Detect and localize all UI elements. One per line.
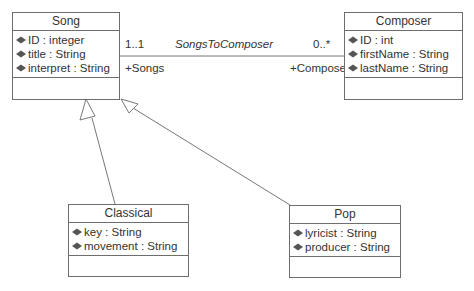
attribute: ID : int <box>348 33 459 47</box>
class-name: Song <box>13 13 119 31</box>
association-name: SongsToComposer <box>175 38 273 50</box>
target-multiplicity: 0..* <box>313 38 330 50</box>
attribute-diamond-icon <box>293 244 303 251</box>
attribute: ID : integer <box>16 33 116 47</box>
class-name: Composer <box>345 13 462 31</box>
attribute: producer : String <box>293 240 397 254</box>
operation-list <box>345 78 462 90</box>
operation-list <box>13 78 119 90</box>
generalization-arrowhead-pop <box>121 99 138 113</box>
attribute-diamond-icon <box>72 243 82 250</box>
source-role: +Songs <box>125 62 164 74</box>
attribute: key : String <box>72 225 185 239</box>
attribute: title : String <box>16 47 116 61</box>
generalization-line-classical[interactable] <box>92 118 115 204</box>
attribute: lastName : String <box>348 61 459 75</box>
attribute: interpret : String <box>16 61 116 75</box>
attribute: lyricist : String <box>293 226 397 240</box>
attribute-diamond-icon <box>16 37 26 44</box>
source-multiplicity: 1..1 <box>125 38 144 50</box>
attribute-list: lyricist : String producer : String <box>290 224 400 257</box>
attribute: movement : String <box>72 239 185 253</box>
attribute-list: ID : int firstName : String lastName : S… <box>345 31 462 78</box>
attribute-diamond-icon <box>16 51 26 58</box>
class-classical[interactable]: Classical key : String movement : String <box>68 204 189 277</box>
class-name: Pop <box>290 206 400 224</box>
attribute-diamond-icon <box>348 37 358 44</box>
class-song[interactable]: Song ID : integer title : String interpr… <box>12 12 120 100</box>
attribute-diamond-icon <box>72 229 82 236</box>
operation-list <box>290 257 400 269</box>
class-pop[interactable]: Pop lyricist : String producer : String <box>289 205 401 278</box>
attribute-diamond-icon <box>348 51 358 58</box>
attribute-diamond-icon <box>293 230 303 237</box>
class-composer[interactable]: Composer ID : int firstName : String las… <box>344 12 463 100</box>
attribute: firstName : String <box>348 47 459 61</box>
attribute-list: ID : integer title : String interpret : … <box>13 31 119 78</box>
generalization-arrowhead-classical <box>80 99 95 120</box>
generalization-line-pop[interactable] <box>133 108 290 205</box>
attribute-diamond-icon <box>16 65 26 72</box>
class-name: Classical <box>69 205 188 223</box>
attribute-list: key : String movement : String <box>69 223 188 256</box>
target-role: +Composer <box>290 62 350 74</box>
attribute-diamond-icon <box>348 65 358 72</box>
operation-list <box>69 256 188 268</box>
